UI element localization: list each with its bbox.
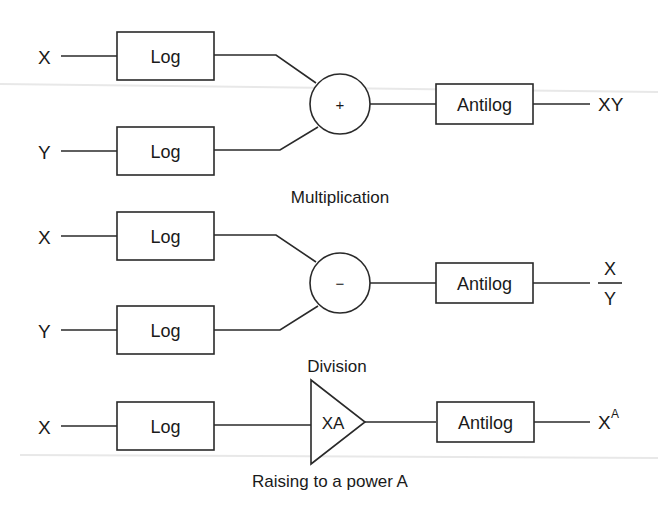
amplifier-xa: XA bbox=[311, 380, 365, 464]
svg-text:Log: Log bbox=[150, 47, 180, 67]
numerator: X bbox=[604, 259, 616, 279]
summing-junction-minus: − bbox=[310, 253, 370, 313]
wire bbox=[214, 127, 318, 150]
caption-multiplication: Multiplication bbox=[291, 188, 389, 207]
input-x-label: X bbox=[38, 417, 51, 438]
log-block-x: Log bbox=[117, 212, 214, 260]
power-section: X Log XA Antilog X A Raising to a power … bbox=[38, 380, 619, 491]
log-block-y: Log bbox=[117, 127, 214, 175]
denominator: Y bbox=[604, 289, 616, 309]
wire bbox=[214, 306, 318, 330]
minus-icon: − bbox=[336, 275, 345, 292]
output-xy-label: XY bbox=[598, 94, 624, 115]
input-x-label: X bbox=[38, 227, 51, 248]
log-block-x: Log bbox=[117, 402, 214, 450]
svg-text:Antilog: Antilog bbox=[458, 413, 513, 433]
multiplication-section: X Log Y Log + Antilog XY Multiplication bbox=[38, 32, 624, 207]
caption-division: Division bbox=[307, 357, 367, 376]
svg-text:Log: Log bbox=[150, 321, 180, 341]
wire bbox=[214, 55, 316, 83]
svg-text:Antilog: Antilog bbox=[457, 95, 512, 115]
output-base: X bbox=[598, 412, 611, 433]
wire bbox=[214, 235, 316, 262]
svg-text:Antilog: Antilog bbox=[457, 274, 512, 294]
scan-artifact bbox=[20, 455, 658, 458]
division-section: X Log Y Log − Antilog X Y Division bbox=[38, 212, 622, 376]
antilog-block: Antilog bbox=[436, 263, 533, 303]
log-block-y: Log bbox=[117, 306, 214, 354]
output-exponent: A bbox=[611, 407, 619, 421]
output-x-power-a: X A bbox=[598, 407, 619, 433]
svg-text:Log: Log bbox=[150, 227, 180, 247]
log-block-x: Log bbox=[117, 32, 214, 80]
svg-text:Log: Log bbox=[150, 142, 180, 162]
input-x-label: X bbox=[38, 47, 51, 68]
antilog-block: Antilog bbox=[436, 84, 533, 124]
input-y-label: Y bbox=[38, 321, 51, 342]
caption-power: Raising to a power A bbox=[252, 472, 409, 491]
summing-junction-plus: + bbox=[310, 74, 370, 134]
diagram-canvas: X Log Y Log + Antilog XY Multiplication … bbox=[0, 0, 658, 517]
plus-icon: + bbox=[336, 96, 345, 113]
input-y-label: Y bbox=[38, 142, 51, 163]
output-fraction-x-over-y: X Y bbox=[598, 259, 622, 309]
svg-text:Log: Log bbox=[150, 417, 180, 437]
antilog-block: Antilog bbox=[437, 402, 534, 442]
svg-text:XA: XA bbox=[322, 414, 345, 433]
